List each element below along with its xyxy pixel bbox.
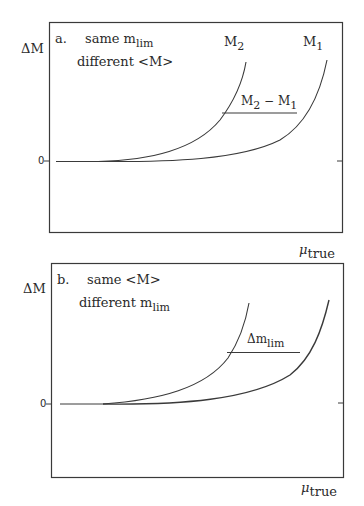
panel-a-x-axis-label: μtrue [299, 243, 335, 256]
panel-a-condition-line1: same mlim [85, 32, 153, 45]
panel-b-condition-line2: different mlim [79, 296, 170, 309]
panel-b-difference-label: Δmlim [247, 333, 285, 345]
panel-b-y-axis-label: ΔM [23, 282, 46, 295]
panel-a-curve-label-m2: M2 [224, 35, 244, 48]
diff-op: − [260, 94, 278, 108]
panel-b-curve-left [103, 303, 249, 404]
panel-a-label: a. [55, 32, 67, 45]
m2-sub: 2 [237, 40, 244, 53]
panel-b-line2-sub: lim [152, 301, 169, 314]
delta-m-sub: lim [267, 337, 284, 350]
panel-b-condition-line1: same <M> [87, 273, 161, 286]
mu-sub: true [307, 246, 335, 261]
mu-sub-b: true [309, 484, 337, 499]
m1-sub: 1 [316, 40, 323, 53]
panel-b-x-axis-label: μtrue [301, 481, 337, 494]
panel-a-curve-label-m1: M1 [303, 35, 323, 48]
panel-a-condition-line1-text: same m [85, 31, 136, 46]
diff-a: M [241, 94, 253, 108]
panel-b-line2-text: different m [79, 295, 152, 310]
panel-a-condition-line2: different <M> [77, 55, 173, 68]
m1-name: M [303, 34, 316, 49]
diff-a-sub: 2 [253, 99, 260, 112]
delta-m-text: Δm [247, 332, 267, 346]
panel-b-zero-label: 0 [40, 399, 46, 409]
diff-b: M [278, 94, 290, 108]
panel-a-curve-m2 [98, 62, 246, 162]
panel-a-y-axis-label: ΔM [21, 42, 44, 55]
m2-name: M [224, 34, 237, 49]
panel-b-label: b. [57, 273, 69, 286]
panel-a-condition-line1-sub: lim [136, 37, 153, 50]
diff-b-sub: 1 [290, 99, 297, 112]
panel-a-zero-label: 0 [38, 156, 44, 166]
panel-a-difference-label: M2 − M1 [241, 95, 297, 107]
